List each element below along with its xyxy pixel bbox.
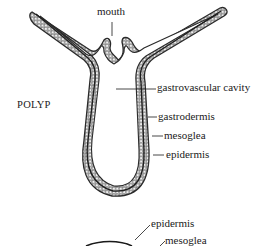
label-epidermis-lower: epidermis (151, 218, 194, 229)
label-gastrodermis: gastrodermis (158, 111, 215, 122)
cross-section-arc (86, 242, 132, 246)
polyp-diagram (0, 0, 260, 246)
label-gastrovascular-cavity: gastrovascular cavity (157, 82, 250, 93)
label-epidermis: epidermis (166, 149, 209, 160)
label-mouth: mouth (97, 6, 125, 17)
figure-title-polyp: POLYP (17, 100, 51, 111)
polyp-body (30, 8, 227, 197)
label-mesoglea: mesoglea (164, 130, 206, 141)
epidermis-lower-leader (135, 225, 150, 240)
label-mesoglea-lower: mesoglea (165, 235, 207, 246)
